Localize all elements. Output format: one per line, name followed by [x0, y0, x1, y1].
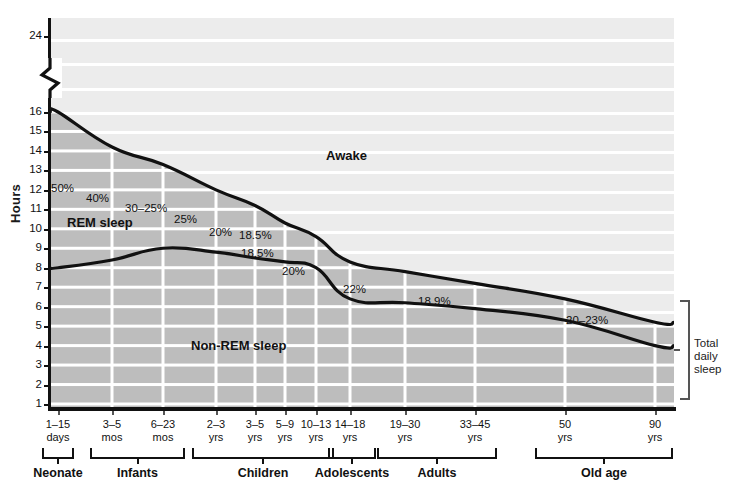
x-tick-label-top: 6–23 — [133, 418, 193, 431]
y-tick-mark — [44, 170, 49, 172]
y-tick-mark — [44, 385, 49, 387]
x-tick-mark — [475, 411, 477, 415]
y-tick-mark — [44, 326, 49, 328]
total-line-2: daily — [694, 350, 722, 363]
x-tick-label-top: 90 — [625, 418, 685, 431]
gridline-h-sleep — [50, 364, 674, 367]
gridline-h-sleep — [50, 344, 674, 347]
pct-label-1: 50% — [51, 182, 74, 194]
gridline-v — [162, 18, 165, 410]
gridline-h-sleep — [50, 383, 674, 386]
gridline-h-sleep — [50, 111, 674, 114]
y-tick-label: 7 — [14, 281, 42, 293]
y-tick-label: 12 — [14, 184, 42, 196]
pct-label-3: 30–25% — [125, 202, 167, 214]
nonrem-sleep-label: Non-REM sleep — [191, 338, 286, 353]
x-tick-mark — [163, 411, 165, 415]
y-tick-label: 1 — [14, 398, 42, 410]
total-line-3: sleep — [694, 363, 722, 376]
group-label: Adults — [377, 466, 497, 480]
x-axis-line — [48, 407, 676, 411]
group-label: Old age — [544, 466, 664, 480]
pct-label-6: 18.5% — [239, 229, 272, 241]
gridline-v — [474, 18, 477, 410]
x-tick-mark — [112, 411, 114, 415]
y-tick-label: 2 — [14, 379, 42, 391]
gridline-h-sleep — [50, 169, 674, 172]
gridline-v — [404, 18, 407, 410]
x-tick-mark — [405, 411, 407, 415]
y-tick-label: 4 — [14, 340, 42, 352]
y-tick-mark — [44, 36, 49, 38]
x-tick-mark — [350, 411, 352, 415]
x-tick-mark — [565, 411, 567, 415]
x-tick-mark — [216, 411, 218, 415]
x-tick-label-bottom: yrs — [625, 431, 685, 444]
y-tick-label: 16 — [14, 106, 42, 118]
x-tick-label-top: 33–45 — [445, 418, 505, 431]
group-bracket — [90, 448, 185, 459]
pct-label-4: 25% — [174, 213, 197, 225]
total-line-1: Total — [694, 337, 722, 350]
x-tick-label-bottom: days — [28, 431, 88, 444]
x-tick-label: 1–15days — [28, 418, 88, 443]
gridline-v — [111, 18, 114, 410]
gridline-v — [654, 18, 657, 410]
x-tick-label: 14–18yrs — [320, 418, 380, 443]
y-tick-mark — [44, 190, 49, 192]
plot-area: Awake REM sleep Non-REM sleep 50% 40% 30… — [50, 18, 674, 410]
awake-label: Awake — [326, 148, 367, 163]
y-tick-label: 9 — [14, 242, 42, 254]
pct-label-8: 20% — [282, 265, 305, 277]
x-tick-label-top: 14–18 — [320, 418, 380, 431]
x-tick-label: 50yrs — [535, 418, 595, 443]
y-tick-mark — [44, 229, 49, 231]
x-tick-mark — [58, 411, 60, 415]
y-tick-label: 5 — [14, 320, 42, 332]
y-tick-label: 14 — [14, 145, 42, 157]
group-bracket — [328, 448, 376, 459]
x-tick-mark — [255, 411, 257, 415]
pct-label-10: 18.9% — [418, 295, 451, 307]
y-tick-label: 15 — [14, 125, 42, 137]
x-tick-label-bottom: yrs — [535, 431, 595, 444]
gridline-h-sleep — [50, 188, 674, 191]
axis-break-icon — [38, 58, 62, 98]
group-bracket — [535, 448, 673, 459]
x-tick-mark — [285, 411, 287, 415]
pct-label-7: 18.5% — [241, 247, 274, 259]
pct-label-9: 22% — [343, 283, 366, 295]
x-tick-label: 33–45yrs — [445, 418, 505, 443]
x-tick-label-bottom: yrs — [375, 431, 435, 444]
total-daily-sleep-label: Total daily sleep — [694, 337, 722, 376]
y-tick-mark — [44, 268, 49, 270]
x-tick-label-bottom: yrs — [320, 431, 380, 444]
group-bracket — [192, 448, 334, 459]
y-tick-mark — [44, 151, 49, 153]
y-tick-mark — [44, 365, 49, 367]
sleep-chart-figure: Awake REM sleep Non-REM sleep 50% 40% 30… — [0, 0, 729, 497]
sleep-area-svg — [50, 18, 674, 410]
pct-label-11: 20–23% — [566, 314, 608, 326]
x-tick-label-bottom: yrs — [445, 431, 505, 444]
y-tick-label: 13 — [14, 164, 42, 176]
y-tick-label: 24 — [14, 30, 42, 42]
rem-sleep-label: REM sleep — [67, 215, 133, 230]
total-daily-sleep-bracket — [680, 300, 690, 400]
x-tick-label-top: 50 — [535, 418, 595, 431]
gridline-h-sleep — [50, 247, 674, 250]
gridline-h-sleep — [50, 305, 674, 308]
pct-label-2: 40% — [86, 192, 109, 204]
y-tick-label: 6 — [14, 301, 42, 313]
x-tick-mark — [655, 411, 657, 415]
gridline-h-sleep — [50, 403, 674, 406]
y-tick-mark — [44, 346, 49, 348]
x-tick-label: 6–23mos — [133, 418, 193, 443]
y-tick-mark — [44, 131, 49, 133]
group-bracket — [42, 448, 74, 459]
gridline-v — [349, 18, 352, 410]
group-bracket — [377, 448, 497, 459]
gridline-h-sleep — [50, 130, 674, 133]
x-tick-mark — [316, 411, 318, 415]
x-tick-label: 19–30yrs — [375, 418, 435, 443]
